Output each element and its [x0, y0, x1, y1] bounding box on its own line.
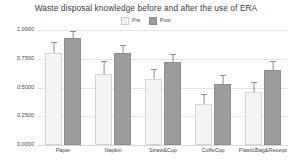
y-axis-tick-label: 1.0000 — [4, 27, 34, 33]
y-axis-tick-label: 0.5000 — [4, 85, 34, 91]
bar-group — [138, 30, 188, 145]
error-bar-cap — [70, 31, 76, 32]
chart-title: Waste disposal knowledge before and afte… — [0, 3, 292, 13]
bar-slot — [195, 30, 212, 145]
error-bar — [172, 54, 173, 62]
bar-pre[interactable] — [95, 74, 112, 145]
error-bar — [122, 45, 123, 53]
y-axis-tick-label: 0.7500 — [4, 56, 34, 62]
x-axis-tick-label: Paper — [38, 148, 88, 154]
y-axis-tick-label: 0.2500 — [4, 113, 34, 119]
plot-area: 1.00000.75000.50000.25000.0000 — [38, 30, 288, 145]
bar-group — [38, 30, 88, 145]
error-bar — [53, 42, 54, 54]
error-bar-cap — [220, 75, 226, 76]
x-axis-tick-label: Straw&Cup — [138, 148, 188, 154]
bar-slot — [95, 30, 112, 145]
bar-post[interactable] — [114, 53, 131, 145]
bar-slot — [164, 30, 181, 145]
bar-slot — [64, 30, 81, 145]
error-bar-cap — [51, 42, 57, 43]
error-bar-cap — [201, 94, 207, 95]
error-bar-cap — [170, 54, 176, 55]
bar-slot — [264, 30, 281, 145]
error-bar — [222, 75, 223, 84]
x-axis-tick-label: CoffeCup — [188, 148, 238, 154]
bar-group — [238, 30, 288, 145]
error-bar — [272, 61, 273, 70]
error-bar-cap — [120, 45, 126, 46]
legend-item-post: Post — [149, 17, 170, 25]
bar-slot — [45, 30, 62, 145]
error-bar — [153, 69, 154, 79]
bar-slot — [114, 30, 131, 145]
bar-pre[interactable] — [145, 79, 162, 145]
error-bar — [253, 82, 254, 92]
y-axis-tick-label: 0.0000 — [4, 142, 34, 148]
error-bar — [203, 94, 204, 103]
error-bar-cap — [101, 61, 107, 62]
bar-group — [88, 30, 138, 145]
bar-slot — [214, 30, 231, 145]
x-axis-labels: PaperNapkinStraw&CupCoffeCupPlasticBag&R… — [38, 148, 288, 154]
bar-slot — [245, 30, 262, 145]
legend-swatch-pre — [121, 17, 129, 25]
legend-swatch-post — [149, 17, 157, 25]
legend-label-post: Post — [160, 18, 171, 23]
legend-label-pre: Pre — [132, 18, 140, 23]
bar-post[interactable] — [214, 84, 231, 145]
bar-groups — [38, 30, 288, 145]
bar-post[interactable] — [264, 70, 281, 145]
bar-chart: Waste disposal knowledge before and afte… — [0, 0, 292, 168]
error-bar — [103, 61, 104, 74]
chart-legend: Pre Post — [0, 16, 292, 26]
bar-pre[interactable] — [245, 92, 262, 145]
bar-post[interactable] — [64, 38, 81, 145]
bar-pre[interactable] — [45, 53, 62, 145]
error-bar-cap — [151, 69, 157, 70]
bar-pre[interactable] — [195, 104, 212, 145]
x-axis-tick-label: PlasticBag&Receipt — [238, 148, 288, 154]
gridline — [38, 145, 288, 146]
error-bar — [72, 31, 73, 38]
bar-post[interactable] — [164, 62, 181, 145]
x-axis-tick-label: Napkin — [88, 148, 138, 154]
bar-group — [188, 30, 238, 145]
error-bar-cap — [270, 61, 276, 62]
bar-slot — [145, 30, 162, 145]
legend-item-pre: Pre — [121, 17, 140, 25]
error-bar-cap — [251, 82, 257, 83]
